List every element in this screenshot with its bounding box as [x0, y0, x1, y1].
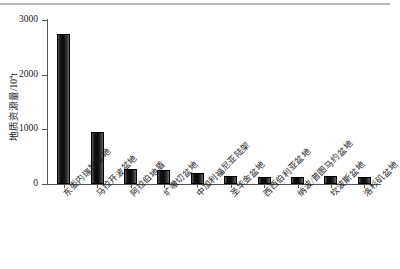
y-tick-mark	[42, 129, 47, 130]
bar	[57, 34, 70, 184]
top-divider-rule	[0, 3, 390, 5]
y-tick-label: 3000	[19, 15, 38, 24]
y-axis-line	[47, 19, 48, 185]
y-axis-title-base: 地质资源量/10	[9, 79, 19, 141]
y-axis-title-unit: t	[9, 73, 19, 76]
y-tick-label: 0	[33, 179, 38, 188]
y-tick-label: 2000	[19, 70, 38, 79]
y-tick-mark	[42, 75, 47, 76]
y-axis-title-exponent: 4	[7, 76, 14, 79]
y-axis-title: 地质资源量/104t	[4, 52, 18, 162]
y-tick-mark	[42, 184, 47, 185]
y-tick-label: 1000	[19, 124, 38, 133]
y-axis-title-container: 地质资源量/104t	[4, 52, 18, 162]
y-tick-mark	[42, 20, 47, 21]
